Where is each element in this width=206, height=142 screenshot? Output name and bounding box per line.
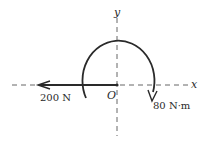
origin-point — [115, 83, 118, 86]
moment-arc — [82, 41, 154, 98]
force-moment-diagram: y x O 200 N 80 N·m — [0, 0, 206, 142]
force-label: 200 N — [40, 92, 71, 103]
y-axis-label: y — [113, 6, 121, 19]
moment-label: 80 N·m — [153, 100, 191, 111]
x-axis-label: x — [191, 78, 198, 91]
origin-label: O — [107, 89, 116, 102]
